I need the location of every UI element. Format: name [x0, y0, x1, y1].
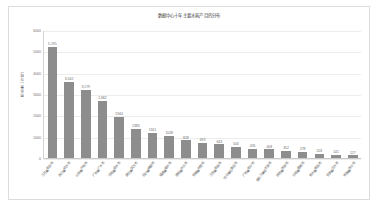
- bar-item[interactable]: 504: [228, 31, 245, 158]
- bar-value-label: 408: [266, 145, 272, 149]
- x-axis-tick-labels: 江苏省南京市浙江省杭州市山东省济南市广东省广州市河南省郑州市湖北省武汉市四川省成…: [43, 160, 361, 200]
- bar-rect[interactable]: [281, 151, 291, 159]
- x-tick-label: 浙江省杭州市: [58, 161, 72, 178]
- chart-title: 数据中心十年主要水耗产目的分布: [9, 12, 369, 18]
- plot-area: 5,1953,5623,1792,68219441383116110288286…: [43, 31, 361, 159]
- x-tick-label: 甘肃省兰州市: [326, 161, 340, 178]
- bar-item[interactable]: 408: [261, 31, 278, 158]
- x-tick-label: 河南省郑州市: [108, 161, 122, 178]
- x-tick-label: 贵州省贵阳市: [309, 161, 323, 178]
- bar-rect[interactable]: [231, 147, 241, 158]
- bar-value-label: 643: [216, 140, 222, 144]
- x-tick-label: 陕西省西安市: [275, 161, 289, 178]
- x-label-slot: 贵州省贵阳市: [311, 160, 328, 200]
- bar-item[interactable]: 127: [344, 31, 361, 158]
- x-tick-label: 广西省南宁市: [242, 161, 256, 178]
- bar-rect[interactable]: [315, 154, 325, 158]
- bar-value-label: 2,682: [98, 96, 107, 100]
- x-tick-label: 江苏省南京市: [41, 161, 55, 178]
- x-tick-label: 湖北省武汉市: [125, 161, 139, 178]
- bar-item[interactable]: 1028: [161, 31, 178, 158]
- bar-rect[interactable]: [214, 144, 224, 158]
- y-axis-tick-labels: 0100020003000400050006000: [23, 31, 41, 159]
- x-label-slot: 山东省济南市: [76, 160, 93, 200]
- bar-rect[interactable]: [148, 133, 158, 158]
- bar-item[interactable]: 203: [311, 31, 328, 158]
- x-tick-label: 云南省昆明市: [292, 161, 306, 178]
- bar-rect[interactable]: [48, 47, 58, 158]
- x-label-slot: 甘肃省兰州市: [327, 160, 344, 200]
- bar-item[interactable]: 3,179: [77, 31, 94, 158]
- bar-rect[interactable]: [248, 149, 258, 158]
- x-label-slot: 河北省石家庄市: [227, 160, 244, 200]
- x-tick-label: 山东省济南市: [75, 161, 89, 178]
- bar-value-label: 1028: [165, 131, 173, 135]
- bar-item[interactable]: 1944: [111, 31, 128, 158]
- x-label-slot: 陕西省西安市: [277, 160, 294, 200]
- bar-rect[interactable]: [264, 149, 274, 158]
- bar-item[interactable]: 3,562: [61, 31, 78, 158]
- bar-value-label: 1383: [132, 124, 140, 128]
- bar-rect[interactable]: [98, 101, 108, 158]
- bar-value-label: 435: [250, 144, 256, 148]
- bar-value-label: 278: [300, 147, 306, 151]
- bar-rect[interactable]: [181, 140, 191, 158]
- y-tick-label: 5000: [25, 50, 41, 54]
- bar-value-label: 1161: [149, 128, 156, 132]
- y-tick-label: 6000: [25, 29, 41, 33]
- bar-rect[interactable]: [198, 143, 208, 158]
- x-label-slot: 云南省昆明市: [294, 160, 311, 200]
- x-tick-label: 四川省成都市: [141, 161, 155, 178]
- x-tick-label: 广东省广州市: [91, 161, 105, 178]
- x-tick-label: 江西省南昌市: [208, 161, 222, 178]
- bar-item[interactable]: 1383: [127, 31, 144, 158]
- bar-value-label: 3,562: [65, 77, 74, 81]
- bar-rect[interactable]: [64, 82, 74, 158]
- x-label-slot: 广东省广州市: [93, 160, 110, 200]
- bar-item[interactable]: 1161: [144, 31, 161, 158]
- x-tick-label: 青海省西宁市: [342, 161, 356, 178]
- y-tick-label: 2000: [25, 114, 41, 118]
- bar-item[interactable]: 5,195: [44, 31, 61, 158]
- bar-item[interactable]: 828: [178, 31, 195, 158]
- bar-rect[interactable]: [331, 155, 341, 158]
- x-label-slot: 江苏省南京市: [43, 160, 60, 200]
- bar-rect[interactable]: [298, 152, 308, 158]
- x-label-slot: 湖南省长沙市: [177, 160, 194, 200]
- y-tick-label: 3000: [25, 93, 41, 97]
- bar-rect[interactable]: [114, 117, 124, 158]
- x-label-slot: 湖北省武汉市: [127, 160, 144, 200]
- bar-item[interactable]: 2,682: [94, 31, 111, 158]
- x-tick-label: 安徽省合肥市: [192, 161, 206, 178]
- x-label-slot: 黑龙江省哈尔滨市: [261, 160, 278, 200]
- x-label-slot: 福建省福州市: [160, 160, 177, 200]
- bar-value-label: 203: [317, 149, 323, 153]
- x-label-slot: 河南省郑州市: [110, 160, 127, 200]
- bar-value-label: 352: [283, 146, 289, 150]
- bar-value-label: 3,179: [81, 85, 90, 89]
- chart-frame: 数据中心十年主要水耗产目的分布 用水量（万吨） 0100020003000400…: [8, 6, 370, 200]
- x-label-slot: 四川省成都市: [143, 160, 160, 200]
- bar-value-label: 141: [333, 150, 339, 154]
- bar-item[interactable]: 352: [278, 31, 295, 158]
- bar-rect[interactable]: [348, 155, 358, 158]
- bar-item[interactable]: 141: [328, 31, 345, 158]
- bar-item[interactable]: 278: [294, 31, 311, 158]
- bar-value-label: 693: [200, 138, 206, 142]
- bar-rect[interactable]: [164, 136, 174, 158]
- bar-rect[interactable]: [81, 90, 91, 158]
- bar-item[interactable]: 435: [244, 31, 261, 158]
- bar-value-label: 127: [350, 151, 356, 155]
- bar-item[interactable]: 693: [194, 31, 211, 158]
- bar-rect[interactable]: [131, 129, 141, 159]
- bar-value-label: 1944: [115, 112, 123, 116]
- y-tick-label: 0: [25, 157, 41, 161]
- y-tick-label: 1000: [25, 136, 41, 140]
- x-label-slot: 浙江省杭州市: [60, 160, 77, 200]
- y-tick-label: 4000: [25, 72, 41, 76]
- x-tick-label: 湖南省长沙市: [175, 161, 189, 178]
- bar-item[interactable]: 643: [211, 31, 228, 158]
- x-label-slot: 青海省西宁市: [344, 160, 361, 200]
- bar-value-label: 828: [183, 136, 189, 140]
- x-label-slot: 安徽省合肥市: [194, 160, 211, 200]
